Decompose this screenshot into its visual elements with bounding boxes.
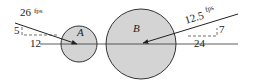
velocity-b-run: 24 <box>194 37 206 49</box>
velocity-b-slope-triangle <box>188 28 217 36</box>
collision-diagram: B A 26 fps 5 12 12.5 fps 7 24 <box>0 0 254 83</box>
velocity-b-unit: fps <box>204 4 215 14</box>
velocity-b-rise: 7 <box>219 23 225 35</box>
velocity-a-run: 12 <box>30 37 41 49</box>
velocity-a-rise: 5 <box>14 24 20 36</box>
ball-b-label: B <box>133 22 140 34</box>
velocity-a-magnitude: 26 <box>20 6 32 18</box>
ball-a-label: A <box>76 26 84 38</box>
velocity-a-unit: fps <box>34 7 43 15</box>
velocity-b-magnitude: 12.5 <box>183 9 205 26</box>
